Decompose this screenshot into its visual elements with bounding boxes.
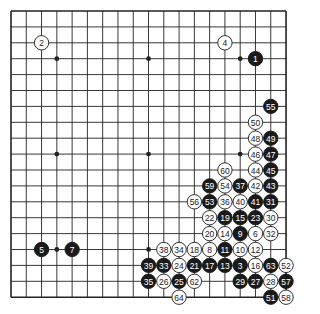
white-stone: 24	[172, 258, 186, 272]
white-stone: 48	[248, 131, 262, 145]
move-number: 24	[174, 261, 184, 271]
move-number: 41	[251, 197, 261, 207]
black-stone: 59	[202, 179, 216, 193]
move-number: 10	[235, 245, 245, 255]
white-stone: 30	[264, 211, 278, 225]
white-stone: 26	[157, 274, 171, 288]
move-number: 62	[190, 277, 200, 287]
move-number: 19	[220, 213, 230, 223]
move-number: 36	[220, 197, 230, 207]
move-number: 8	[207, 245, 212, 255]
star-point	[238, 152, 243, 157]
black-stone: 57	[279, 274, 293, 288]
black-stone: 49	[264, 131, 278, 145]
star-point	[146, 56, 151, 61]
move-number: 33	[159, 261, 169, 271]
move-number: 16	[251, 261, 261, 271]
move-number: 20	[205, 229, 215, 239]
black-stone: 17	[202, 258, 216, 272]
black-stone: 33	[157, 258, 171, 272]
move-number: 37	[235, 181, 245, 191]
move-number: 59	[205, 181, 215, 191]
black-stone: 55	[264, 99, 278, 113]
move-number: 44	[251, 166, 261, 176]
move-number: 46	[251, 150, 261, 160]
black-stone: 39	[141, 258, 155, 272]
star-point	[146, 152, 151, 157]
white-stone: 60	[218, 163, 232, 177]
move-number: 26	[159, 277, 169, 287]
black-stone: 1	[248, 52, 262, 66]
move-number: 63	[266, 261, 276, 271]
move-number: 9	[238, 229, 243, 239]
black-stone: 47	[264, 147, 278, 161]
move-number: 42	[251, 181, 261, 191]
move-number: 56	[190, 197, 200, 207]
black-stone: 53	[202, 195, 216, 209]
move-number: 57	[281, 277, 291, 287]
move-number: 53	[205, 197, 215, 207]
white-stone: 58	[279, 290, 293, 304]
move-number: 50	[251, 118, 261, 128]
white-stone: 8	[202, 242, 216, 256]
move-number: 29	[235, 277, 245, 287]
white-stone: 52	[279, 258, 293, 272]
move-number: 3	[238, 261, 243, 271]
black-stone: 19	[218, 211, 232, 225]
move-number: 48	[251, 134, 261, 144]
move-number: 2	[39, 38, 44, 48]
move-number: 12	[251, 245, 261, 255]
white-stone: 50	[248, 115, 262, 129]
white-stone: 20	[202, 226, 216, 240]
move-number: 49	[266, 134, 276, 144]
move-number: 28	[266, 277, 276, 287]
white-stone: 62	[187, 274, 201, 288]
star-point	[54, 56, 59, 61]
white-stone: 34	[172, 242, 186, 256]
black-stone: 9	[233, 226, 247, 240]
move-number: 31	[266, 197, 276, 207]
white-stone: 16	[248, 258, 262, 272]
move-number: 5	[39, 245, 44, 255]
black-stone: 43	[264, 179, 278, 193]
move-number: 11	[221, 245, 230, 255]
move-number: 32	[266, 229, 276, 239]
black-stone: 25	[172, 274, 186, 288]
white-stone: 18	[187, 242, 201, 256]
move-number: 22	[205, 213, 215, 223]
white-stone: 4	[218, 36, 232, 50]
black-stone: 15	[233, 211, 247, 225]
move-number: 60	[220, 166, 230, 176]
move-number: 7	[70, 245, 75, 255]
white-stone: 6	[248, 226, 262, 240]
move-number: 21	[190, 261, 200, 271]
move-number: 43	[266, 181, 276, 191]
white-stone: 44	[248, 163, 262, 177]
move-number: 18	[190, 245, 200, 255]
black-stone: 11	[218, 242, 232, 256]
black-stone: 37	[233, 179, 247, 193]
move-number: 39	[144, 261, 154, 271]
move-number: 52	[281, 261, 291, 271]
black-stone: 23	[248, 211, 262, 225]
white-stone: 32	[264, 226, 278, 240]
move-number: 1	[253, 54, 258, 64]
move-number: 55	[266, 102, 276, 112]
move-number: 64	[174, 293, 184, 303]
star-point	[54, 152, 59, 157]
move-number: 51	[266, 293, 276, 303]
move-number: 45	[266, 166, 276, 176]
move-number: 25	[174, 277, 184, 287]
black-stone: 21	[187, 258, 201, 272]
black-stone: 45	[264, 163, 278, 177]
white-stone: 10	[233, 242, 247, 256]
black-stone: 31	[264, 195, 278, 209]
move-number: 58	[281, 293, 291, 303]
white-stone: 38	[157, 242, 171, 256]
white-stone: 56	[187, 195, 201, 209]
white-stone: 46	[248, 147, 262, 161]
move-number: 4	[223, 38, 228, 48]
white-stone: 36	[218, 195, 232, 209]
star-point	[238, 56, 243, 61]
black-stone: 5	[34, 242, 48, 256]
